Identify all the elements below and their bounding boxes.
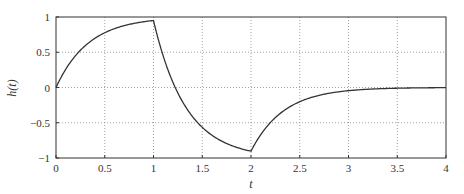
y-tick-label: 0 [45, 82, 51, 94]
y-axis-ticks: 10.50−0.5−1 [30, 11, 59, 164]
y-tick-label: −0.5 [30, 117, 50, 129]
x-tick-label: 0.5 [98, 162, 112, 174]
x-tick-label: 3 [346, 162, 352, 174]
x-tick-label: 2 [248, 162, 254, 174]
y-tick-label: 0.5 [36, 46, 50, 58]
y-tick-label: 1 [45, 11, 51, 23]
x-tick-label: 2.5 [293, 162, 307, 174]
x-tick-label: 3.5 [390, 162, 404, 174]
x-tick-label: 1.5 [195, 162, 209, 174]
x-tick-label: 4 [443, 162, 449, 174]
x-axis-label: t [249, 177, 253, 191]
y-tick-label: −1 [38, 152, 50, 164]
grid-lines [56, 17, 446, 158]
x-tick-label: 1 [151, 162, 157, 174]
chart: 00.511.522.533.54 10.50−0.5−1 t h(t) [0, 0, 464, 194]
x-tick-label: 0 [53, 162, 59, 174]
y-axis-label: h(t) [5, 79, 19, 96]
